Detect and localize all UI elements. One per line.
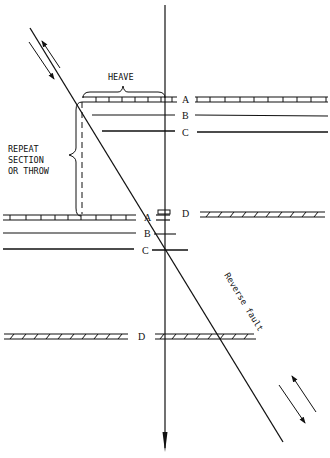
bed-label-c-lower: C <box>142 245 149 256</box>
vertical-borehole-line <box>163 5 168 452</box>
repeat-label-3: OR THROW <box>8 166 50 176</box>
fault-label: Reverse fault <box>222 271 265 333</box>
bed-label-b-upper: B <box>182 110 189 121</box>
bed-label-c-upper: C <box>182 127 189 138</box>
heave-label: HEAVE <box>108 72 134 82</box>
lower-bed-b: B <box>3 228 176 239</box>
reverse-fault-diagram: HEAVE REPEAT SECTION OR THROW A B C D <box>0 0 330 458</box>
fault-line <box>30 28 283 442</box>
bed-label-a-upper: A <box>182 94 190 105</box>
upper-bed-d: D <box>158 208 325 219</box>
bed-label-d-lower: D <box>138 331 145 342</box>
fault-motion-arrows-upper <box>29 41 60 79</box>
heave-brace: HEAVE <box>83 72 165 98</box>
lower-bed-c: C <box>3 245 188 256</box>
bed-label-d-upper: D <box>182 208 189 219</box>
bed-label-b-lower: B <box>144 228 151 239</box>
bed-label-a-lower: A <box>144 212 152 223</box>
upper-bed-b: B <box>92 110 328 121</box>
throw-brace: REPEAT SECTION OR THROW <box>8 102 82 216</box>
lower-bed-a: A <box>3 212 170 223</box>
upper-bed-a: A <box>82 94 328 105</box>
repeat-label-1: REPEAT <box>8 144 39 154</box>
upper-bed-c: C <box>102 127 328 138</box>
repeat-label-2: SECTION <box>8 155 44 165</box>
fault-motion-arrows-lower <box>279 376 316 423</box>
